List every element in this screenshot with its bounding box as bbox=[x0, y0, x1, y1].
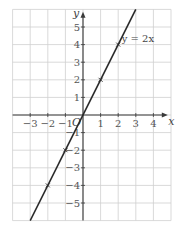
graph-y-equals-2x: −3−2−1123454321−1−2−3−4−5xyO y = 2x bbox=[0, 0, 177, 231]
x-tick-label: 3 bbox=[133, 118, 139, 129]
x-tick-label: −2 bbox=[40, 118, 55, 129]
y-axis-arrow-icon bbox=[81, 12, 86, 18]
y-tick-label: 2 bbox=[74, 74, 80, 85]
y-axis-label: y bbox=[72, 7, 80, 20]
y-tick-label: 1 bbox=[74, 92, 80, 103]
x-axis-arrow-icon bbox=[162, 113, 168, 118]
y-tick-label: −3 bbox=[65, 162, 80, 173]
y-tick-label: 5 bbox=[74, 22, 80, 33]
y-tick-label: 3 bbox=[74, 57, 80, 68]
x-tick-label: 2 bbox=[115, 118, 121, 129]
equation-label: y = 2x bbox=[121, 33, 155, 44]
y-tick-label: −5 bbox=[65, 198, 80, 209]
x-axis-label: x bbox=[168, 115, 175, 128]
x-tick-label: −3 bbox=[23, 118, 38, 129]
x-tick-label: 1 bbox=[97, 118, 103, 129]
y-tick-label: −4 bbox=[65, 180, 80, 191]
x-tick-label: 4 bbox=[150, 118, 156, 129]
y-tick-label: 4 bbox=[74, 39, 80, 50]
